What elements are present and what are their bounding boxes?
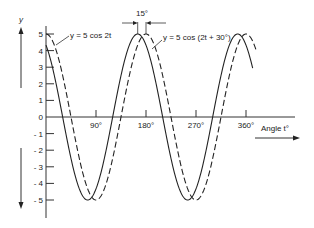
y-tick-label: 2 — [39, 80, 44, 89]
y-tick-label: - 2 — [34, 146, 44, 155]
x-tick-label: 360° — [238, 121, 255, 130]
y-tick-label: 4 — [39, 47, 44, 56]
x-axis-label: Angle t° — [261, 124, 289, 133]
label-solid-curve: y = 5 cos (2t + 30°) — [152, 33, 231, 49]
chart-canvas: 5 4 3 2 1 0 - 1 - 2 - 3 - 4 - 5 90° 180°… — [0, 0, 314, 228]
y-tick-label: - 1 — [34, 130, 44, 139]
y-up-arrow-icon — [19, 27, 24, 88]
y-tick-label: 5 — [39, 30, 44, 39]
phase-shift-label: 15° — [136, 9, 148, 18]
y-axis-label: y — [18, 15, 24, 24]
y-tick-label: - 3 — [34, 163, 44, 172]
phase-shift-annotation: 15° — [122, 9, 166, 34]
y-down-arrow-icon — [19, 148, 24, 209]
x-tick-label: 90° — [90, 121, 102, 130]
curve-solid-label: y = 5 cos (2t + 30°) — [163, 33, 231, 42]
y-tick-label: - 5 — [34, 196, 44, 205]
y-tick-label: 3 — [39, 63, 44, 72]
y-tick-label: - 4 — [34, 179, 44, 188]
x-right-arrow-icon — [255, 136, 300, 141]
label-dashed-curve: y = 5 cos 2t — [56, 31, 112, 45]
y-tick-labels: 5 4 3 2 1 0 - 1 - 2 - 3 - 4 - 5 — [34, 30, 44, 205]
x-tick-label: 180° — [138, 121, 155, 130]
x-ticks — [96, 110, 246, 117]
y-tick-label: 0 — [39, 113, 44, 122]
y-tick-label: 1 — [39, 96, 44, 105]
x-tick-label: 270° — [188, 121, 205, 130]
curve-dashed-label: y = 5 cos 2t — [70, 31, 112, 40]
